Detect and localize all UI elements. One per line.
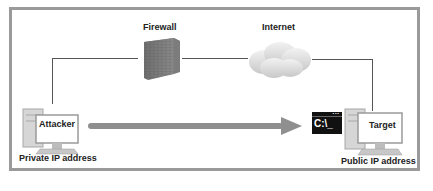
- target-caption: Public IP address: [341, 156, 416, 166]
- terminal-prompt: C:\_: [312, 117, 342, 131]
- wire-attacker-vertical: [52, 58, 53, 104]
- wire-target-vertical: [372, 59, 373, 111]
- wire-firewall-to-internet: [182, 58, 248, 59]
- attacker-computer-icon: [22, 103, 80, 155]
- firewall-label: Firewall: [143, 22, 177, 32]
- target-label: Target: [369, 120, 396, 130]
- target-computer-icon: [344, 105, 404, 157]
- attacker-label: Attacker: [39, 119, 75, 129]
- wire-internet-to-target: [312, 59, 372, 60]
- cloud-icon: [246, 40, 314, 80]
- firewall-icon: [140, 36, 182, 82]
- wire-attacker-to-firewall: [52, 58, 138, 59]
- attacker-caption: Private IP address: [19, 153, 97, 163]
- internet-label: Internet: [262, 22, 295, 32]
- attack-arrow-icon: [88, 117, 303, 135]
- terminal-icon: ▪▪▪ C:\_: [312, 112, 342, 134]
